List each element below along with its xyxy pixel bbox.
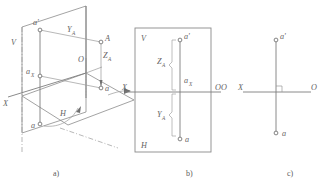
plane-v-outline bbox=[22, 6, 86, 133]
brace-z-b bbox=[169, 40, 176, 90]
label-ax-b: a X bbox=[184, 76, 193, 87]
label-axis-x-c: X bbox=[237, 83, 244, 92]
label-a-prime-b: a' bbox=[184, 32, 190, 41]
plane-h-ground-line bbox=[60, 128, 118, 148]
label-origin-left-c: O bbox=[221, 83, 227, 92]
point-a-prime-a bbox=[38, 28, 42, 32]
point-a-plan-a bbox=[99, 86, 103, 90]
label-a-prime-c: a' bbox=[280, 32, 286, 41]
point-ax-a bbox=[38, 74, 42, 78]
label-origin-right-c: O bbox=[311, 83, 317, 92]
svg-text:X: X bbox=[188, 81, 193, 87]
point-a-b bbox=[178, 137, 182, 141]
label-dim-y-a: Y A bbox=[67, 25, 76, 36]
svg-text:A: A bbox=[107, 56, 112, 62]
label-point-A-a: A bbox=[104, 34, 111, 43]
svg-text:A: A bbox=[161, 115, 166, 121]
projection-figure: V H X O a' a X a a A Y A Z A bbox=[0, 0, 321, 189]
label-a-prime-a: a' bbox=[33, 18, 39, 27]
label-a-lower-a: a bbox=[31, 121, 35, 130]
figure-canvas: V H X O a' a X a a A Y A Z A bbox=[0, 0, 321, 189]
label-ax-a: a X bbox=[26, 67, 35, 78]
fold-arrow-head-lower bbox=[76, 106, 81, 113]
svg-text:a: a bbox=[184, 76, 188, 85]
label-dim-y-b: Y A bbox=[157, 110, 166, 121]
svg-text:A: A bbox=[71, 30, 76, 36]
panel-a: V H X O a' a X a a A Y A Z A bbox=[2, 6, 134, 152]
brace-y-b bbox=[169, 94, 176, 136]
label-plane-h-b: H bbox=[140, 141, 148, 150]
label-a-c: a bbox=[282, 129, 286, 138]
panel-b: V H X O a' a a X Z A Y A bbox=[121, 28, 221, 152]
plane-h-outline bbox=[22, 73, 134, 125]
point-a-lower-a bbox=[38, 122, 42, 126]
label-plane-h-a: H bbox=[59, 109, 67, 118]
svg-text:A: A bbox=[161, 62, 166, 68]
svg-text:X: X bbox=[30, 72, 35, 78]
caption-a: a) bbox=[53, 169, 60, 178]
label-dim-z-b: Z A bbox=[157, 57, 166, 68]
label-axis-x-b: X bbox=[121, 83, 128, 92]
caption-c: c) bbox=[287, 169, 294, 178]
label-axis-x-a: X bbox=[2, 99, 9, 108]
label-plane-v-b: V bbox=[141, 34, 147, 43]
point-A-a bbox=[99, 40, 103, 44]
label-plane-v-a: V bbox=[11, 38, 17, 47]
axis-x-extension-a bbox=[86, 67, 102, 73]
svg-text:a: a bbox=[26, 67, 30, 76]
axis-x-line-a bbox=[8, 73, 86, 97]
label-dim-z-a: Z A bbox=[103, 51, 112, 62]
point-a-c bbox=[274, 131, 278, 135]
panel-c: X O O a' a bbox=[221, 32, 317, 138]
point-a-prime-c bbox=[274, 38, 278, 42]
label-origin-a: O bbox=[78, 55, 84, 64]
point-a-prime-b bbox=[178, 38, 182, 42]
right-angle-mark-c bbox=[276, 86, 282, 92]
label-a-b: a bbox=[185, 135, 189, 144]
caption-b: b) bbox=[186, 169, 193, 178]
label-a-plan-a: a bbox=[105, 84, 109, 93]
